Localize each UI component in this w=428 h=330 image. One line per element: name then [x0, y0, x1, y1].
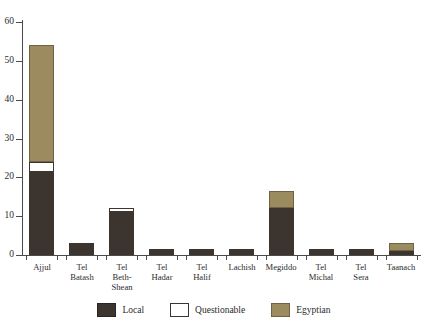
- bar-stack: [229, 249, 254, 255]
- x-axis-category-label: Tel Hadar: [142, 262, 182, 282]
- bar-stack: [269, 191, 294, 255]
- x-axis-tick: [146, 255, 147, 260]
- x-axis-tick: [346, 255, 347, 260]
- bar-segment-local: [29, 172, 54, 255]
- x-axis-tick: [417, 255, 418, 260]
- bar-segment-local: [189, 249, 214, 255]
- stacked-bar-chart: 0102030405060 AjjulTel BatashTel Beth-Sh…: [0, 0, 428, 330]
- chart-legend: LocalQuestionableEgyptian: [0, 303, 428, 317]
- bar-segment-local: [109, 212, 134, 255]
- x-axis-tick: [217, 255, 218, 260]
- legend-label: Local: [122, 305, 144, 315]
- y-axis-tick: [16, 216, 22, 217]
- x-axis-tick: [266, 255, 267, 260]
- bar-stack: [189, 249, 214, 255]
- x-axis-tick: [66, 255, 67, 260]
- bar-segment-questionable: [29, 162, 54, 172]
- x-axis-tick: [106, 255, 107, 260]
- x-axis-tick: [177, 255, 178, 260]
- bar-segment-local: [149, 249, 174, 255]
- y-axis-tick-label: 0: [0, 250, 14, 260]
- bar-stack: [29, 45, 54, 255]
- legend-label: Egyptian: [296, 305, 330, 315]
- bar-segment-local: [389, 251, 414, 255]
- bar-stack: [149, 249, 174, 255]
- y-axis-line: [22, 20, 23, 256]
- x-axis-tick: [337, 255, 338, 260]
- x-axis-tick: [306, 255, 307, 260]
- bar-stack: [389, 243, 414, 255]
- bar-segment-local: [309, 249, 334, 255]
- bar-stack: [309, 249, 334, 255]
- bar-segment-local: [269, 208, 294, 255]
- y-axis-tick-label: 20: [0, 172, 14, 182]
- y-axis-tick-label: 40: [0, 95, 14, 105]
- y-axis-tick: [16, 139, 22, 140]
- bar-segment-egyptian: [389, 243, 414, 251]
- x-axis-category-label: Tel Sera: [341, 262, 381, 282]
- x-axis-tick: [386, 255, 387, 260]
- x-axis-category-label: Tel Michal: [301, 262, 341, 282]
- bar-segment-local: [69, 243, 94, 255]
- legend-label: Questionable: [195, 305, 245, 315]
- x-axis-category-label: Ajjul: [22, 262, 62, 272]
- bar-stack: [349, 249, 374, 255]
- x-axis-tick: [97, 255, 98, 260]
- x-axis-tick: [57, 255, 58, 260]
- bar-stack: [109, 208, 134, 255]
- x-axis-category-label: Tel Halif: [182, 262, 222, 282]
- bar-segment-questionable: [109, 208, 134, 212]
- legend-item[interactable]: Questionable: [170, 303, 245, 317]
- x-axis-tick: [137, 255, 138, 260]
- x-axis-category-label: Tel Beth-Shean: [102, 262, 142, 293]
- y-axis-tick-label: 30: [0, 134, 14, 144]
- y-axis-tick-label: 10: [0, 211, 14, 221]
- x-axis-tick: [377, 255, 378, 260]
- bar-segment-egyptian: [29, 45, 54, 162]
- x-axis-category-label: Tel Batash: [62, 262, 102, 282]
- egyptian-swatch: [271, 303, 290, 317]
- x-axis-tick: [297, 255, 298, 260]
- local-swatch: [97, 303, 116, 317]
- y-axis-tick: [16, 22, 22, 23]
- legend-item[interactable]: Egyptian: [271, 303, 330, 317]
- y-axis-tick-label: 60: [0, 17, 14, 27]
- questionable-swatch: [170, 303, 189, 317]
- x-axis-category-label: Lachish: [222, 262, 262, 272]
- x-axis-category-label: Taanach: [381, 262, 421, 272]
- y-axis-tick: [16, 255, 22, 256]
- y-axis-tick: [16, 177, 22, 178]
- bar-segment-local: [229, 249, 254, 255]
- x-axis-tick: [186, 255, 187, 260]
- x-axis-category-label: Megiddo: [261, 262, 301, 272]
- bar-segment-local: [349, 249, 374, 255]
- y-axis-tick: [16, 100, 22, 101]
- x-axis-tick: [26, 255, 27, 260]
- legend-item[interactable]: Local: [97, 303, 144, 317]
- y-axis-tick-label: 50: [0, 56, 14, 66]
- bar-stack: [69, 243, 94, 255]
- x-axis-line: [22, 255, 421, 256]
- bar-segment-egyptian: [269, 191, 294, 208]
- y-axis-tick: [16, 61, 22, 62]
- x-axis-tick: [226, 255, 227, 260]
- x-axis-tick: [257, 255, 258, 260]
